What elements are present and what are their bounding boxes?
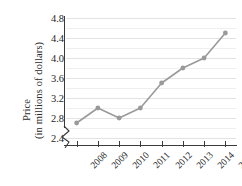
y-tick-label: 4.0	[51, 53, 64, 64]
data-point-marker	[138, 106, 143, 111]
y-tick-label: 3.2	[51, 93, 64, 104]
data-point-marker	[223, 31, 228, 36]
line-chart: Price (in millions of dollars) 4.84.44.0…	[0, 0, 242, 186]
x-tick-mark	[162, 141, 163, 147]
plot-area	[66, 18, 236, 138]
x-tick-mark	[140, 141, 141, 147]
y-axis-line	[64, 16, 65, 128]
gridline-major	[66, 138, 236, 139]
x-tick-label: 2014	[216, 150, 237, 171]
y-tick-label: 4.4	[51, 33, 64, 44]
x-tick-mark	[98, 141, 99, 147]
y-tick-label: 4.8	[51, 13, 64, 24]
y-tick-label: 3.6	[51, 73, 64, 84]
y-axis-title: Price (in millions of dollars)	[0, 0, 42, 150]
data-point-marker	[74, 121, 79, 126]
y-tick-label: 2.8	[51, 113, 64, 124]
x-tick-label: 2015	[237, 150, 242, 171]
y-axis-title-line-1: Price	[21, 99, 32, 121]
y-axis-break-icon	[59, 126, 73, 148]
x-axis-line	[64, 145, 237, 146]
x-tick-mark	[119, 141, 120, 147]
x-tick-mark	[77, 141, 78, 147]
series-line	[66, 18, 236, 138]
x-tick-label: 2008	[88, 150, 109, 171]
x-tick-label: 2009	[109, 150, 130, 171]
x-tick-label: 2011	[152, 150, 172, 170]
x-tick-label: 2013	[194, 150, 215, 171]
x-tick-label: 2010	[131, 150, 152, 171]
data-point-marker	[117, 116, 122, 121]
data-point-marker	[180, 66, 185, 71]
data-point-marker	[202, 56, 207, 61]
data-point-marker	[159, 81, 164, 86]
x-tick-mark	[204, 141, 205, 147]
x-tick-mark	[183, 141, 184, 147]
x-tick-label: 2012	[173, 150, 194, 171]
data-point-marker	[95, 106, 100, 111]
x-tick-mark	[225, 141, 226, 147]
